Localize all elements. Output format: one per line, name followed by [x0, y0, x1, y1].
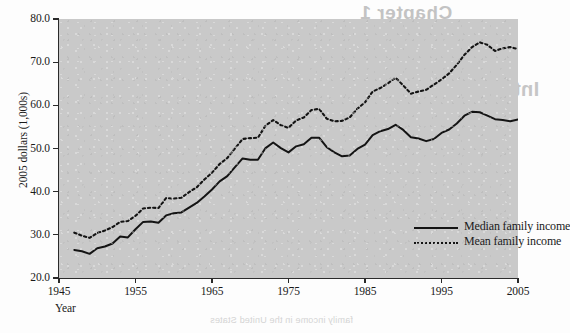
x-axis-tick-label: 1945	[29, 285, 89, 297]
legend-item-mean: Mean family income	[414, 234, 570, 249]
x-axis-tick	[364, 278, 365, 283]
x-axis-tick-label: 1955	[106, 285, 166, 297]
x-axis-tick	[135, 278, 136, 283]
x-axis-tick-label: 2005	[488, 285, 548, 297]
y-axis-tick	[53, 148, 59, 149]
legend-swatch-dotted-line-icon	[414, 237, 458, 247]
bleedthrough-footnote-text: family income in the United States	[210, 315, 353, 325]
x-axis-title: Year	[55, 302, 76, 314]
x-axis-tick	[441, 278, 442, 283]
x-axis-tick	[288, 278, 289, 283]
plot-area: Median family income Mean family income	[59, 19, 518, 278]
y-axis-tick	[53, 191, 59, 192]
x-axis-tick-label: 1975	[259, 285, 319, 297]
y-axis-tick	[53, 105, 59, 106]
x-axis-tick-label: 1965	[182, 285, 242, 297]
chart-legend: Median family income Mean family income	[414, 219, 570, 249]
y-axis-tick-label: 80.0	[6, 13, 50, 25]
x-axis-tick-label: 1995	[412, 285, 472, 297]
y-axis-tick	[53, 62, 59, 63]
x-axis-tick	[211, 278, 212, 283]
series-line-mean-family-income	[74, 42, 518, 238]
x-axis-tick-label: 1985	[335, 285, 395, 297]
legend-swatch-solid-line-icon	[414, 222, 458, 232]
x-axis-tick	[58, 278, 59, 283]
y-axis-title: 2005 dollars (1,000s)	[17, 40, 29, 240]
y-axis-tick	[53, 18, 59, 19]
y-axis-tick-label: 20.0	[6, 272, 50, 284]
legend-label-median: Median family income	[464, 220, 570, 233]
legend-item-median: Median family income	[414, 219, 570, 234]
legend-label-mean: Mean family income	[464, 235, 561, 248]
x-axis-tick	[517, 278, 518, 283]
y-axis-tick	[53, 234, 59, 235]
